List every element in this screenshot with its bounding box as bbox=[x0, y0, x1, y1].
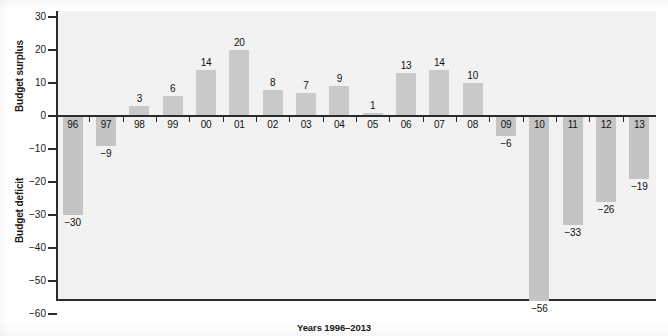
bar bbox=[296, 93, 316, 116]
bar bbox=[196, 70, 216, 116]
bar-value-label: 8 bbox=[256, 77, 289, 88]
bar-value-label: 10 bbox=[456, 70, 489, 81]
x-axis-tick-label: 11 bbox=[556, 119, 589, 131]
bar-value-label: 20 bbox=[223, 37, 256, 48]
bar-value-label: 6 bbox=[156, 83, 189, 94]
x-axis-tick-label: 12 bbox=[589, 119, 622, 131]
y-axis-tick bbox=[48, 148, 57, 150]
x-axis-tick-label: 10 bbox=[523, 119, 556, 131]
x-axis-title: Years 1996–2013 bbox=[0, 322, 668, 333]
y-axis-tick bbox=[48, 181, 57, 183]
y-axis-tick bbox=[48, 214, 57, 216]
plot-bottom-rule bbox=[56, 299, 656, 301]
bar-value-label: −9 bbox=[89, 148, 122, 159]
y-axis-tick bbox=[48, 280, 57, 282]
x-axis-tick-label: 00 bbox=[189, 119, 222, 131]
bar bbox=[263, 90, 283, 116]
x-axis-tick-label: 03 bbox=[289, 119, 322, 131]
bar-value-label: 13 bbox=[389, 60, 422, 71]
y-axis-tick bbox=[48, 115, 57, 117]
bar-value-label: 14 bbox=[423, 57, 456, 68]
x-axis-tick-label: 08 bbox=[456, 119, 489, 131]
bar bbox=[529, 116, 549, 301]
x-axis-tick-label: 13 bbox=[623, 119, 656, 131]
bar-value-label: −6 bbox=[489, 138, 522, 149]
x-axis-tick-label: 98 bbox=[123, 119, 156, 131]
bar bbox=[429, 70, 449, 116]
bar-value-label: −26 bbox=[589, 204, 622, 215]
bar bbox=[163, 96, 183, 116]
y-axis-tick bbox=[48, 247, 57, 249]
bar-value-label: −19 bbox=[623, 181, 656, 192]
bar bbox=[329, 86, 349, 116]
x-axis-tick-label: 97 bbox=[89, 119, 122, 131]
x-axis-tick-label: 01 bbox=[223, 119, 256, 131]
x-axis-tick-label: 02 bbox=[256, 119, 289, 131]
bar bbox=[463, 83, 483, 116]
y-axis-tick-label: −60 bbox=[2, 309, 46, 319]
bar-value-label: 7 bbox=[289, 80, 322, 91]
y-axis-title-surplus: Budget surplus bbox=[14, 40, 25, 112]
y-axis-tick bbox=[48, 16, 57, 18]
bar-value-label: −56 bbox=[523, 303, 556, 314]
bar-value-label: 1 bbox=[356, 100, 389, 111]
y-axis-tick-label: 30 bbox=[2, 12, 46, 22]
bar bbox=[396, 73, 416, 116]
chart-page: 969798990001020304050607080910111213 −30… bbox=[0, 0, 668, 336]
y-axis-tick bbox=[48, 313, 57, 315]
bar-value-label: 3 bbox=[123, 93, 156, 104]
y-axis-tick-label: −40 bbox=[2, 243, 46, 253]
y-axis-tick-label: 0 bbox=[2, 111, 46, 121]
y-axis-tick bbox=[48, 49, 57, 51]
bar-value-label: −30 bbox=[56, 217, 89, 228]
x-axis-tick-label: 05 bbox=[356, 119, 389, 131]
x-axis-tick-label: 99 bbox=[156, 119, 189, 131]
x-axis-tick-label: 04 bbox=[323, 119, 356, 131]
y-axis-tick-label: −50 bbox=[2, 276, 46, 286]
bar-value-label: 9 bbox=[323, 73, 356, 84]
y-axis-tick bbox=[48, 82, 57, 84]
y-axis-title-deficit: Budget deficit bbox=[14, 178, 25, 243]
y-axis-tick-label: −10 bbox=[2, 144, 46, 154]
x-axis-tick-label: 06 bbox=[389, 119, 422, 131]
x-axis-tick-label: 09 bbox=[489, 119, 522, 131]
bar bbox=[229, 50, 249, 116]
x-axis-tick-label: 96 bbox=[56, 119, 89, 131]
bar-value-label: −33 bbox=[556, 227, 589, 238]
bar-value-label: 14 bbox=[189, 57, 222, 68]
x-axis-tick-label: 07 bbox=[423, 119, 456, 131]
bar bbox=[563, 116, 583, 225]
